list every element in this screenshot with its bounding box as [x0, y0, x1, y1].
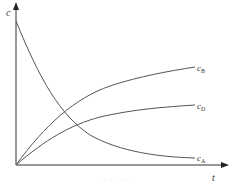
label-cD: cD — [197, 101, 206, 112]
curve-cA — [16, 21, 195, 158]
label-cB: cB — [197, 63, 205, 74]
figure-caption: · · · · · · · — [0, 176, 232, 184]
y-axis-label: c — [6, 7, 11, 18]
x-axis-arrow-icon — [221, 162, 229, 168]
label-cA: cA — [197, 153, 206, 164]
y-axis-arrow-icon — [13, 2, 19, 10]
kinetics-chart: c t cB cD cA — [0, 0, 232, 187]
